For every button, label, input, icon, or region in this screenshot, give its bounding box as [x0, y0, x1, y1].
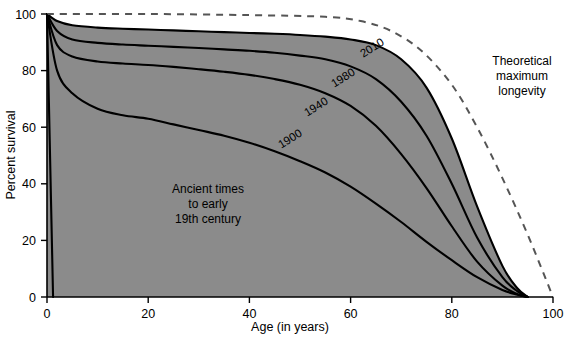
chart-canvas: 020406080100 020406080100 Age (in years)…	[0, 0, 577, 340]
y-tick-label-80: 80	[22, 64, 36, 78]
y-axis-tick-labels: 020406080100	[15, 8, 36, 305]
y-tick-label-60: 60	[22, 121, 36, 135]
annotation-theoretical-line2: maximum	[496, 69, 548, 83]
survival-curve-chart: 020406080100 020406080100 Age (in years)…	[0, 0, 577, 340]
x-tick-label-0: 0	[44, 307, 51, 321]
x-axis-title: Age (in years)	[251, 320, 329, 334]
annotation-theoretical-line3: longevity	[498, 84, 545, 98]
y-tick-label-40: 40	[22, 177, 36, 191]
y-tick-label-0: 0	[29, 291, 36, 305]
y-axis-ticks	[41, 14, 47, 297]
y-tick-label-100: 100	[15, 8, 36, 22]
annotation-theoretical-line1: Theoretical	[492, 54, 551, 68]
x-tick-label-100: 100	[543, 307, 564, 321]
x-tick-label-60: 60	[344, 307, 358, 321]
y-axis-title: Percent survival	[4, 111, 18, 200]
annotation-ancient-line3: 19th century	[175, 212, 241, 226]
x-tick-label-40: 40	[242, 307, 256, 321]
annotation-theoretical-maximum-longevity: Theoretical maximum longevity	[492, 54, 551, 98]
x-axis-ticks	[47, 297, 553, 303]
annotation-ancient-line1: Ancient times	[172, 182, 244, 196]
x-tick-label-80: 80	[445, 307, 459, 321]
x-tick-label-20: 20	[141, 307, 155, 321]
y-tick-label-20: 20	[22, 234, 36, 248]
annotation-ancient-line2: to early	[188, 197, 227, 211]
x-axis-tick-labels: 020406080100	[44, 307, 564, 321]
